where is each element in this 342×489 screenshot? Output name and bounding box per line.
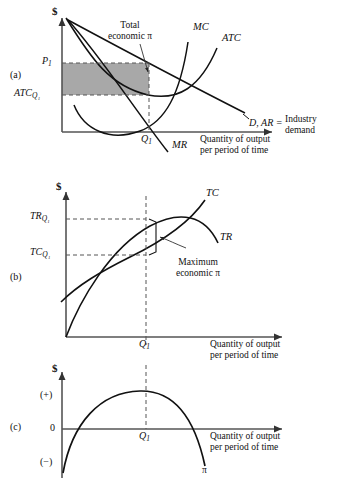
max-profit-line-1: Maximum bbox=[178, 257, 218, 267]
tc-curve-label: TC bbox=[206, 188, 219, 199]
atc-symbol: ATC bbox=[14, 87, 32, 98]
annotation-line-2: economic π bbox=[108, 31, 152, 41]
panel-b-x-title-line-1: Quantity of output bbox=[210, 339, 280, 349]
maximum-economic-profit-annotation: Maximum economic π bbox=[155, 257, 241, 279]
panel-c-x-axis-title: Quantity of output per period of time bbox=[210, 431, 280, 452]
quantity-subscript-c: 1 bbox=[146, 434, 150, 443]
panel-a-y-axis-label: $ bbox=[52, 6, 58, 17]
total-economic-profit-annotation: Total economic π bbox=[96, 20, 164, 42]
price-subscript: 1 bbox=[48, 59, 52, 68]
industry-demand-line-2: demand bbox=[285, 125, 315, 135]
atc-subscript: Q₁ bbox=[32, 91, 40, 100]
panel-c-y-axis-label: $ bbox=[52, 363, 58, 374]
tc-subscript: Q₁ bbox=[42, 250, 50, 259]
panel-c-negative-tick: (−) bbox=[40, 457, 52, 467]
tr-symbol: TR bbox=[30, 210, 42, 221]
panel-a-price-tick: P1 bbox=[42, 56, 52, 67]
panel-c-x-title-line-1: Quantity of output bbox=[210, 431, 280, 441]
profit-curve-label: π bbox=[202, 466, 207, 476]
max-profit-leader-line bbox=[160, 237, 186, 248]
atc-curve-label: ATC bbox=[222, 33, 241, 44]
industry-demand-line-1: Industry bbox=[285, 114, 317, 124]
quantity-subscript: 1 bbox=[148, 137, 152, 146]
mc-curve-label: MC bbox=[193, 22, 209, 33]
panel-b-x-axis-title: Quantity of output per period of time bbox=[210, 339, 280, 360]
mr-curve-label: MR bbox=[172, 140, 187, 151]
panel-a-id: (a) bbox=[10, 70, 21, 80]
panel-a-x-title-line-1: Quantity of output bbox=[200, 134, 270, 144]
panel-c-x-title-line-2: per period of time bbox=[210, 442, 278, 452]
economics-three-panel-figure bbox=[0, 0, 342, 489]
tc-symbol: TC bbox=[30, 246, 42, 257]
panel-a-x-title-line-2: per period of time bbox=[200, 145, 268, 155]
panel-c-zero-tick: 0 bbox=[50, 423, 55, 433]
tr-curve-label: TR bbox=[220, 232, 232, 243]
panel-b-tr-tick: TRQ₁ bbox=[30, 211, 50, 222]
panel-a-x-axis-title: Quantity of output per period of time bbox=[200, 134, 270, 155]
annotation-line-1: Total bbox=[120, 20, 139, 30]
panel-a-atc-tick: ATCQ₁ bbox=[14, 88, 40, 99]
panel-c-graph bbox=[62, 365, 282, 478]
panel-b-id: (b) bbox=[10, 272, 22, 282]
panel-b-y-axis-label: $ bbox=[56, 181, 62, 192]
tr-subscript: Q₁ bbox=[42, 214, 50, 223]
quantity-subscript-b: 1 bbox=[146, 342, 150, 351]
total-cost-curve bbox=[61, 200, 205, 302]
demand-symbol: D, AR = bbox=[249, 117, 283, 128]
panel-c-positive-tick: (+) bbox=[40, 390, 52, 400]
industry-demand-label: Industry demand bbox=[285, 114, 317, 135]
panel-b-x-title-line-2: per period of time bbox=[210, 350, 278, 360]
panel-b-tc-tick: TCQ₁ bbox=[30, 247, 50, 258]
profit-curve bbox=[63, 391, 205, 473]
demand-curve-label: D, AR = bbox=[249, 118, 283, 128]
max-profit-line-2: economic π bbox=[176, 268, 220, 278]
panel-c-quantity-tick: Q1 bbox=[139, 431, 150, 442]
panel-c-id: (c) bbox=[10, 422, 21, 432]
panel-a-quantity-tick: Q1 bbox=[141, 134, 152, 145]
panel-b-quantity-tick: Q1 bbox=[139, 339, 150, 350]
